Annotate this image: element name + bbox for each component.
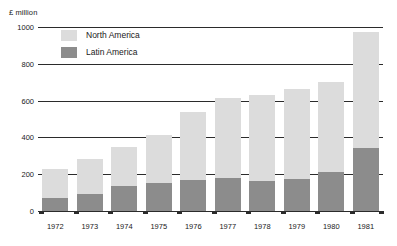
bar-1979[interactable] — [284, 89, 310, 211]
bar-segment-latin-america-1976[interactable] — [180, 180, 206, 211]
bar-segment-north-america-1975[interactable] — [146, 135, 172, 184]
y-axis-tick-labels: 02004006008001000 — [0, 27, 34, 211]
bar-1972[interactable] — [42, 169, 68, 211]
bar-segment-north-america-1976[interactable] — [180, 112, 206, 180]
bar-1975[interactable] — [146, 135, 172, 211]
bar-segment-latin-america-1977[interactable] — [215, 178, 241, 211]
bar-segment-north-america-1978[interactable] — [249, 95, 275, 181]
bar-segment-north-america-1972[interactable] — [42, 169, 68, 198]
bar-1978[interactable] — [249, 95, 275, 211]
x-tick-1977 — [212, 211, 217, 214]
x-tick-label-1978: 1978 — [254, 222, 271, 231]
bar-segment-latin-america-1978[interactable] — [249, 181, 275, 211]
y-axis-title: £ million — [9, 8, 37, 17]
bar-segment-north-america-1977[interactable] — [215, 98, 241, 178]
x-tick-label-1973: 1973 — [81, 222, 98, 231]
bar-1973[interactable] — [77, 159, 103, 211]
x-tick-1972 — [39, 211, 44, 214]
x-tick-1976 — [177, 211, 182, 214]
bar-segment-latin-america-1979[interactable] — [284, 179, 310, 211]
bar-1977[interactable] — [215, 98, 241, 211]
x-tick-label-1977: 1977 — [219, 222, 236, 231]
legend-swatch-icon-latin — [61, 47, 77, 58]
bar-segment-north-america-1981[interactable] — [353, 32, 379, 148]
x-tick-1980 — [315, 211, 320, 214]
bar-1974[interactable] — [111, 147, 137, 211]
y-tick-label-600: 600 — [0, 96, 34, 105]
x-axis-tick-labels: 1972197319741975197619771978197919801981 — [38, 222, 383, 236]
bar-segment-north-america-1980[interactable] — [318, 82, 344, 172]
bar-segment-latin-america-1973[interactable] — [77, 194, 103, 211]
x-tick-1975 — [143, 211, 148, 214]
bar-segment-north-america-1974[interactable] — [111, 147, 137, 187]
x-tick-label-1976: 1976 — [185, 222, 202, 231]
bar-segment-latin-america-1975[interactable] — [146, 183, 172, 211]
chart-legend: North AmericaLatin America — [61, 30, 140, 64]
bar-1981[interactable] — [353, 32, 379, 211]
y-tick-label-0: 0 — [0, 207, 34, 216]
stacked-bar-chart: £ million 02004006008001000 197219731974… — [0, 0, 397, 246]
x-tick-1974 — [108, 211, 113, 214]
x-axis-ticks — [38, 211, 383, 216]
x-tick-end — [379, 211, 384, 214]
bar-segment-latin-america-1980[interactable] — [318, 172, 344, 211]
bar-1976[interactable] — [180, 112, 206, 211]
legend-label: North America — [86, 30, 140, 41]
bar-segment-north-america-1973[interactable] — [77, 159, 103, 195]
legend-swatch-icon-north — [61, 30, 77, 41]
x-tick-label-1981: 1981 — [357, 222, 374, 231]
legend-label: Latin America — [86, 47, 138, 58]
x-tick-1973 — [74, 211, 79, 214]
x-tick-1978 — [246, 211, 251, 214]
bar-segment-latin-america-1974[interactable] — [111, 186, 137, 211]
bar-segment-latin-america-1981[interactable] — [353, 148, 379, 211]
legend-item-north[interactable]: North America — [61, 30, 140, 41]
bar-segment-north-america-1979[interactable] — [284, 89, 310, 179]
x-tick-label-1974: 1974 — [116, 222, 133, 231]
x-tick-1979 — [281, 211, 286, 214]
x-tick-label-1972: 1972 — [47, 222, 64, 231]
bar-1980[interactable] — [318, 82, 344, 211]
x-tick-label-1975: 1975 — [150, 222, 167, 231]
y-tick-label-1000: 1000 — [0, 23, 34, 32]
y-tick-label-800: 800 — [0, 59, 34, 68]
legend-item-latin[interactable]: Latin America — [61, 47, 140, 58]
x-tick-1981 — [350, 211, 355, 214]
x-tick-label-1980: 1980 — [323, 222, 340, 231]
x-tick-label-1979: 1979 — [288, 222, 305, 231]
y-tick-label-200: 200 — [0, 170, 34, 179]
bar-segment-latin-america-1972[interactable] — [42, 198, 68, 211]
y-tick-label-400: 400 — [0, 133, 34, 142]
